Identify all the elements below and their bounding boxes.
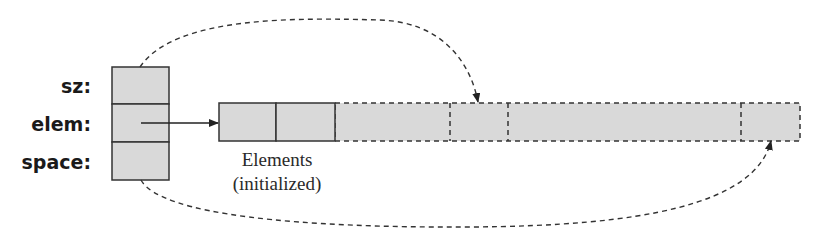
array-cell-initialized-0 (219, 103, 276, 141)
vector-diagram: sz: elem: space: Elements (initialized) (0, 0, 821, 238)
array-cell-initialized-1 (276, 103, 335, 141)
label-sz: sz: (61, 75, 91, 97)
field-sz-cell (112, 67, 169, 104)
array-uninitialized-region (335, 103, 800, 141)
array-caption-line1: Elements (242, 149, 313, 170)
label-elem: elem: (31, 113, 91, 135)
array-caption-line2: (initialized) (233, 173, 322, 195)
label-space: space: (22, 151, 91, 173)
sz-pointer-arrow (140, 19, 478, 102)
array (219, 103, 800, 141)
field-space-cell (112, 142, 169, 180)
